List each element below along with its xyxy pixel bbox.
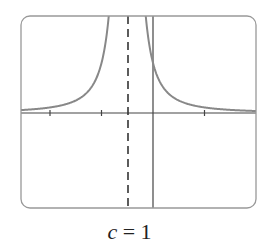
function-graph bbox=[0, 0, 259, 246]
caption-equals: = bbox=[123, 219, 135, 244]
caption-value: 1 bbox=[141, 219, 152, 244]
caption-variable: c bbox=[107, 219, 117, 244]
curve-right-branch bbox=[133, 0, 259, 111]
chart-caption: c = 1 bbox=[0, 218, 259, 246]
plot-frame bbox=[21, 16, 256, 208]
